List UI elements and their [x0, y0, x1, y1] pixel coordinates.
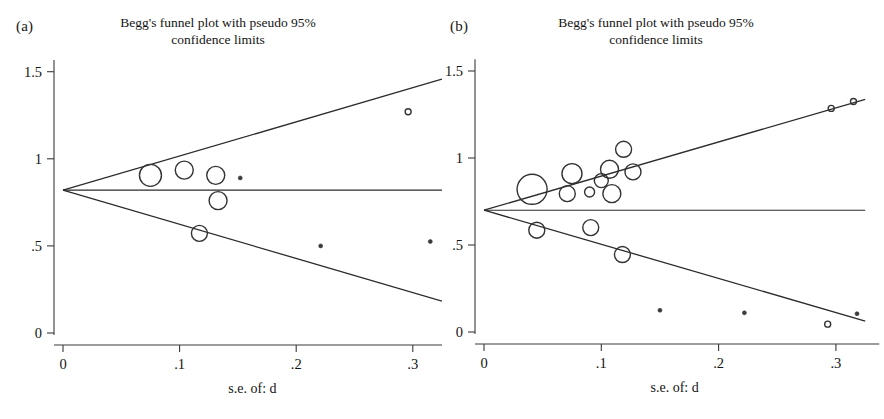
funnel-lines-group — [63, 79, 442, 301]
x-tick-label-.1: .1 — [596, 355, 607, 371]
study-point-1 — [139, 164, 161, 186]
y-tick-label-.5: .5 — [31, 238, 42, 254]
data-points-group — [139, 109, 432, 248]
funnel-lines-group — [484, 99, 865, 321]
x-tick-label-.3: .3 — [830, 355, 841, 371]
axis-labels-group: 0.511.50.1.2.3s.e. of: d — [445, 63, 841, 395]
study-point-9 — [603, 185, 621, 203]
x-tick-label-.1: .1 — [174, 356, 185, 372]
study-point-16 — [855, 312, 859, 316]
study-point-4 — [238, 176, 242, 180]
study-point-14 — [742, 311, 746, 315]
funnel-plot-figure: (a) Begg's funnel plot with pseudo 95% c… — [0, 0, 884, 419]
x-tick-label-.2: .2 — [713, 355, 724, 371]
pseudo-ci-upper-line — [63, 79, 442, 190]
y-tick-label-1: 1 — [35, 151, 42, 167]
y-tick-label-1: 1 — [456, 150, 463, 166]
axis-labels-group: 0.511.50.1.2.3s.e. of: d — [24, 64, 418, 396]
data-points-group — [517, 98, 859, 327]
study-point-8 — [319, 244, 323, 248]
panel-b-plot-area: 0.511.50.1.2.3s.e. of: d — [442, 0, 884, 419]
y-tick-label-.5: .5 — [452, 237, 463, 253]
funnel-plot-panel-b: (b) Begg's funnel plot with pseudo 95% c… — [442, 0, 884, 419]
study-point-3 — [207, 166, 225, 184]
study-point-5 — [616, 141, 632, 157]
y-tick-label-1.5: 1.5 — [445, 63, 463, 79]
x-tick-label-0: 0 — [59, 356, 66, 372]
pseudo-ci-lower-line — [484, 210, 865, 321]
study-point-4 — [585, 187, 595, 197]
study-point-5 — [209, 192, 227, 210]
study-point-11 — [583, 220, 599, 236]
study-point-9 — [428, 240, 432, 244]
y-tick-label-0: 0 — [456, 324, 463, 340]
x-axis-title: s.e. of: d — [228, 381, 276, 396]
study-point-18 — [850, 98, 856, 104]
x-axis-title: s.e. of: d — [651, 380, 699, 395]
x-tick-label-.2: .2 — [291, 356, 302, 372]
study-point-13 — [658, 308, 662, 312]
panel-a-plot-area: 0.511.50.1.2.3s.e. of: d — [0, 0, 442, 419]
study-point-12 — [614, 247, 630, 263]
study-point-3 — [559, 186, 575, 202]
pseudo-ci-lower-line — [63, 190, 442, 301]
study-point-7 — [405, 109, 411, 115]
study-point-15 — [825, 321, 831, 327]
y-tick-label-1.5: 1.5 — [24, 64, 42, 80]
axis-group — [47, 60, 442, 352]
x-tick-label-0: 0 — [480, 355, 487, 371]
study-point-6 — [191, 225, 207, 241]
study-point-1 — [517, 174, 547, 204]
funnel-plot-panel-a: (a) Begg's funnel plot with pseudo 95% c… — [0, 0, 442, 419]
study-point-2 — [175, 161, 193, 179]
study-point-10 — [529, 222, 545, 238]
pseudo-ci-upper-line — [484, 99, 865, 210]
x-tick-label-.3: .3 — [407, 356, 418, 372]
study-point-2 — [562, 164, 582, 184]
study-point-6 — [601, 160, 619, 178]
y-tick-label-0: 0 — [35, 325, 42, 341]
